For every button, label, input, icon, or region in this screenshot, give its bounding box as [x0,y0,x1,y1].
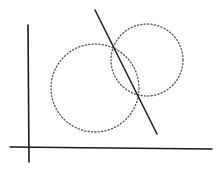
radical-axis-line [95,10,157,134]
x-axis [10,147,212,149]
right-circle [111,24,183,96]
left-circle [51,44,139,132]
diagram-canvas [0,0,222,169]
y-axis [28,25,29,162]
